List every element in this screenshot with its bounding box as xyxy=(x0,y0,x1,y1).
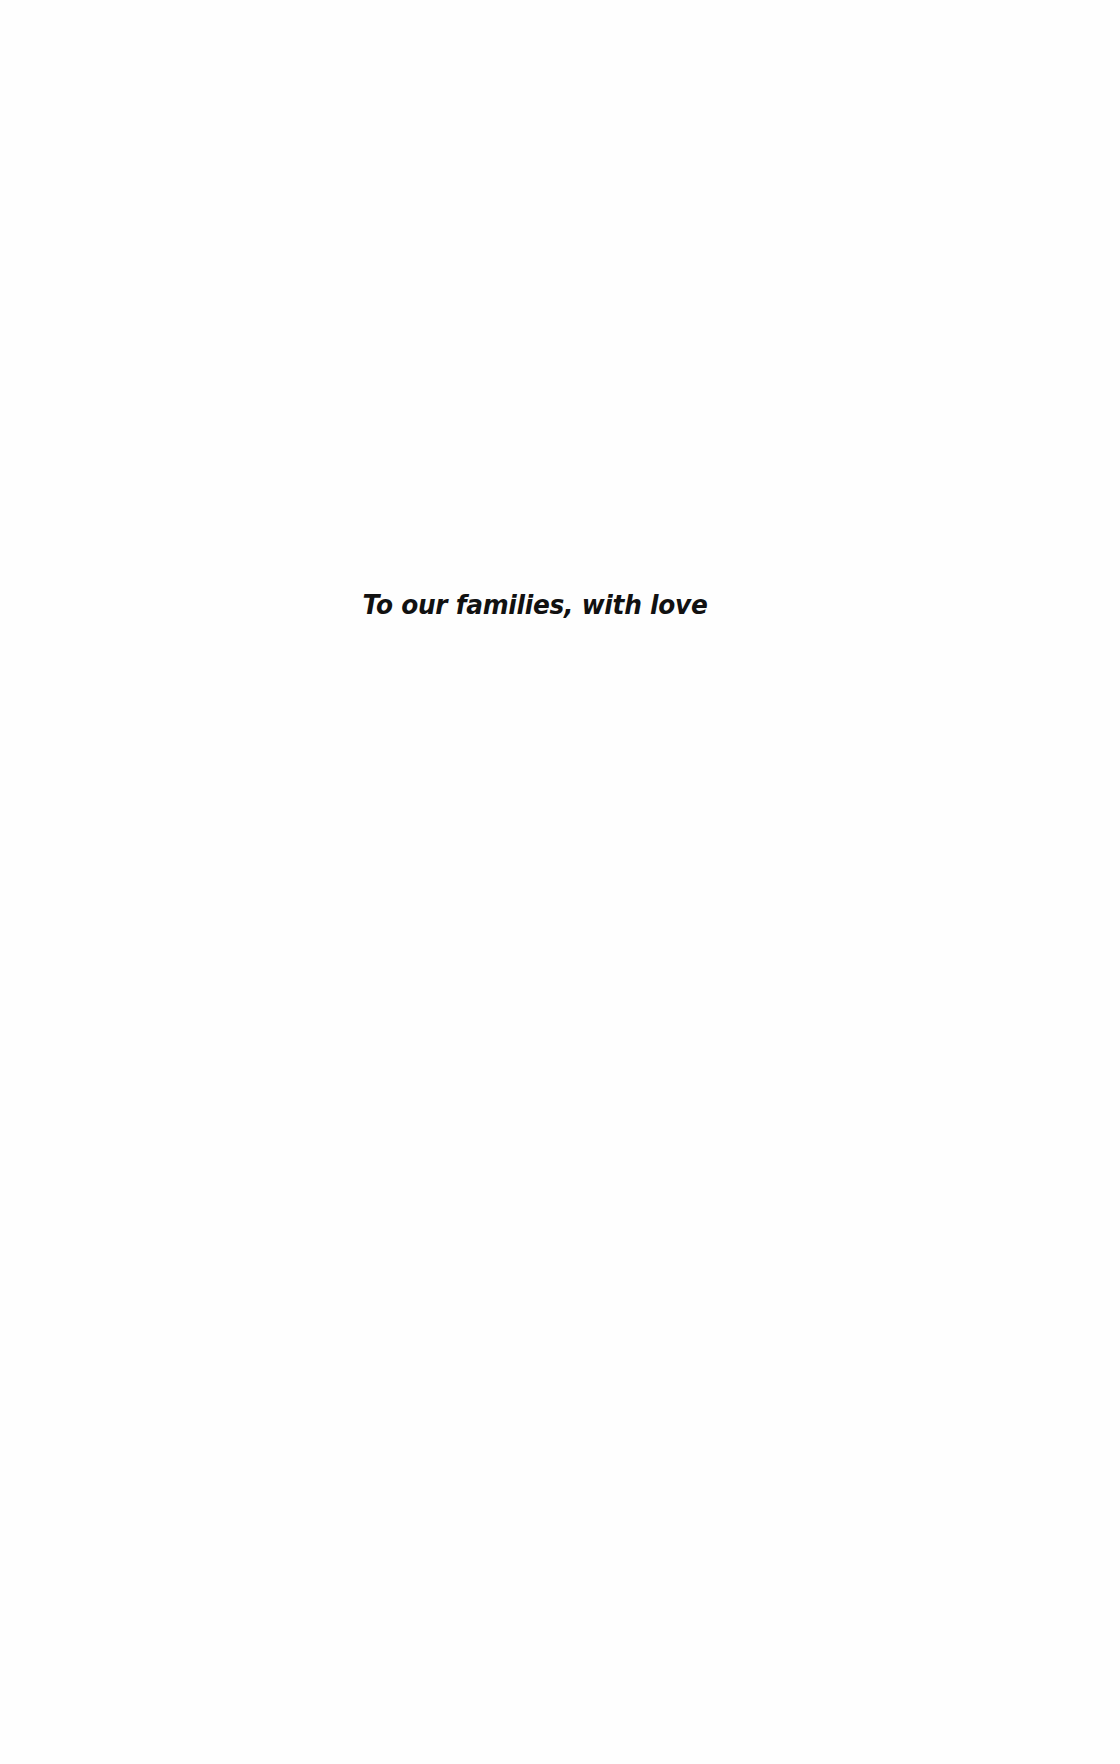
dedication-text: To our families, with love xyxy=(43,587,1027,623)
book-page: To our families, with love xyxy=(0,0,1120,1764)
